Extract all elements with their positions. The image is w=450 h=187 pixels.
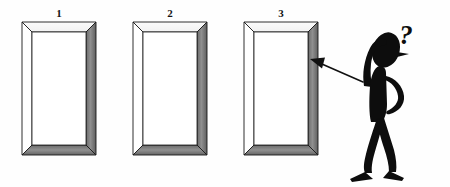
picture-frame-2[interactable]: 2 xyxy=(133,7,207,155)
frame-3-bottom-rail xyxy=(244,145,318,155)
frame-2-bottom-rail xyxy=(133,145,207,155)
picture-frame-1[interactable]: 1 xyxy=(22,7,96,155)
frame-1-opening xyxy=(32,32,86,145)
frame-label-3: 3 xyxy=(278,7,284,19)
picture-frame-3[interactable]: 3 xyxy=(244,7,318,155)
illustration-canvas: 1 2 3 xyxy=(0,0,450,187)
frame-2-opening xyxy=(143,32,197,145)
frame-1-left-rail xyxy=(22,22,32,155)
frame-1-bottom-rail xyxy=(22,145,96,155)
frame-2-right-rail xyxy=(197,22,207,155)
frame-label-1: 1 xyxy=(56,7,62,19)
frame-3-right-rail xyxy=(308,22,318,155)
frame-2-top-rail xyxy=(133,22,207,32)
frame-label-2: 2 xyxy=(167,7,173,19)
frame-3-top-rail xyxy=(244,22,318,32)
frame-3-opening xyxy=(254,32,308,145)
question-mark: ? xyxy=(399,20,413,50)
frame-2-left-rail xyxy=(133,22,143,155)
illustration-svg: 1 2 3 xyxy=(0,0,450,187)
frame-1-top-rail xyxy=(22,22,96,32)
frame-1-right-rail xyxy=(86,22,96,155)
frame-3-left-rail xyxy=(244,22,254,155)
